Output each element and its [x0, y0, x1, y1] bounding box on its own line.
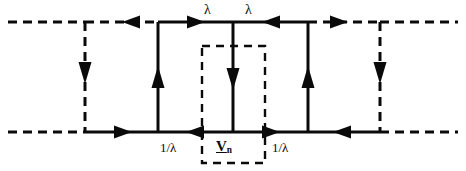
label-lambda-left: λ	[204, 3, 211, 17]
label-rate-right: 1/λ	[272, 141, 288, 154]
state-symbol: V	[216, 138, 227, 154]
arrow-vertical-solid-left-pointing-up	[152, 66, 165, 88]
arrow-top-dashed-right-pointing-right	[330, 16, 348, 29]
state-subscript: n	[227, 145, 232, 155]
arrow-vertical-dashed-left-pointing-down	[79, 62, 92, 84]
arrow-vertical-solid-center-pointing-down	[227, 68, 240, 90]
arrow-top-left-pointing-left	[122, 16, 140, 29]
arrow-vertical-solid-right-pointing-up	[302, 66, 315, 88]
label-lambda-right: λ	[245, 3, 252, 17]
arrow-vertical-dashed-right-pointing-down	[374, 62, 387, 84]
label-rate-left: 1/λ	[160, 141, 176, 154]
arrow-top-solid-right-pointing-left	[262, 16, 280, 29]
state-transition-diagram	[0, 0, 466, 171]
arrow-top-solid-left-pointing-right	[187, 16, 205, 29]
arrow-bottom-right-pointing-left	[333, 126, 351, 139]
label-state-node: Vn	[216, 139, 232, 154]
arrow-bottom-left-pointing-right	[114, 126, 132, 139]
diagram-canvas: λ λ 1/λ 1/λ Vn	[0, 0, 466, 171]
